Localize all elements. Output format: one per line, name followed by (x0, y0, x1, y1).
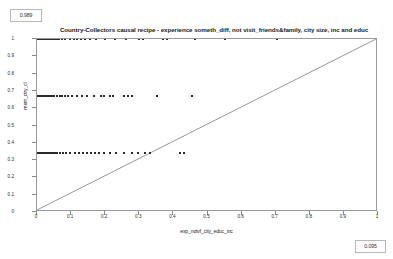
data-point (67, 95, 69, 97)
data-point (62, 152, 64, 154)
data-point (114, 39, 116, 40)
data-point (191, 95, 193, 97)
coverage-badge: 0.095 (355, 240, 386, 253)
data-point (61, 39, 63, 40)
data-point (74, 152, 76, 154)
data-point (137, 152, 139, 154)
diagonal-reference-line (37, 39, 376, 210)
y-tick-label: 0.6 (0, 105, 14, 110)
x-tick-label: 0.5 (197, 214, 217, 219)
x-tick-label: 0.3 (128, 214, 148, 219)
data-point (95, 39, 97, 40)
data-point (127, 95, 129, 97)
data-point (156, 95, 158, 97)
data-point (103, 152, 105, 154)
data-point (56, 95, 58, 97)
data-point (61, 95, 63, 97)
data-point (89, 39, 91, 40)
data-point (65, 152, 67, 154)
data-point (131, 95, 133, 97)
data-point (69, 152, 71, 154)
data-point (103, 95, 105, 97)
y-tick-mark (32, 90, 36, 91)
data-point (76, 39, 78, 40)
data-point (81, 95, 83, 97)
data-point (59, 152, 61, 154)
data-point (183, 152, 185, 154)
data-point (144, 152, 146, 154)
data-point (109, 152, 111, 154)
y-tick-mark (32, 176, 36, 177)
data-point (59, 95, 61, 97)
page-title: Country-Collectors causal recipe - exper… (44, 26, 384, 33)
data-point (90, 152, 92, 154)
data-point (93, 95, 95, 97)
data-point (131, 152, 133, 154)
y-tick-mark (32, 159, 36, 160)
consistency-badge: 0.989 (10, 9, 42, 22)
data-point (109, 95, 111, 97)
y-tick-label: 0.2 (0, 174, 14, 179)
y-tick-mark (32, 55, 36, 56)
y-tick-label: 0.9 (0, 53, 14, 58)
data-point (179, 152, 181, 154)
data-point (71, 95, 73, 97)
y-tick-label: 0.5 (0, 122, 14, 127)
data-point (78, 152, 80, 154)
y-tick-label: 1 (0, 36, 14, 41)
data-point (112, 95, 114, 97)
x-tick-label: 0.1 (60, 214, 80, 219)
data-point (162, 39, 164, 40)
x-axis-title: exp_notvf_city_educ_inc (36, 228, 377, 234)
y-tick-label: 0.1 (0, 191, 14, 196)
data-point (142, 39, 144, 40)
data-point (276, 39, 278, 40)
y-tick-mark (32, 107, 36, 108)
data-point (58, 39, 60, 40)
data-point (56, 152, 58, 154)
data-point (123, 95, 125, 97)
x-tick-label: 0.8 (299, 214, 319, 219)
x-tick-label: 0.7 (265, 214, 285, 219)
x-tick-label: 0.9 (333, 214, 353, 219)
data-point (76, 95, 78, 97)
data-point (194, 39, 196, 40)
y-tick-label: 0.7 (0, 87, 14, 92)
x-tick-label: 0.2 (94, 214, 114, 219)
y-tick-label: 0.8 (0, 70, 14, 75)
data-point (125, 39, 127, 40)
data-point (100, 95, 102, 97)
data-point (166, 39, 168, 40)
data-point (149, 152, 151, 154)
data-point (224, 39, 226, 40)
x-tick-label: 0.4 (162, 214, 182, 219)
data-point (84, 39, 86, 40)
y-tick-mark (32, 125, 36, 126)
data-point (138, 39, 140, 40)
data-point (94, 152, 96, 154)
y-tick-mark (32, 38, 36, 39)
scatter-plot-frame (36, 38, 377, 211)
data-point (86, 95, 88, 97)
data-point (73, 39, 75, 40)
data-point (123, 152, 125, 154)
data-point (104, 39, 106, 40)
data-point (86, 152, 88, 154)
data-point (82, 152, 84, 154)
y-axis-title: mem_ctry_cl (22, 65, 28, 127)
x-tick-label: 1 (367, 214, 387, 219)
data-point (98, 152, 100, 154)
x-tick-label: 0 (26, 214, 46, 219)
x-tick-label: 0.6 (231, 214, 251, 219)
data-point (69, 39, 71, 40)
y-tick-label: 0 (0, 209, 14, 214)
data-point (64, 39, 66, 40)
y-tick-mark (32, 73, 36, 74)
plot-area (37, 39, 376, 210)
y-tick-label: 0.3 (0, 157, 14, 162)
y-tick-mark (32, 142, 36, 143)
data-point (64, 95, 66, 97)
y-tick-mark (32, 194, 36, 195)
data-point (80, 39, 82, 40)
data-point (115, 152, 117, 154)
